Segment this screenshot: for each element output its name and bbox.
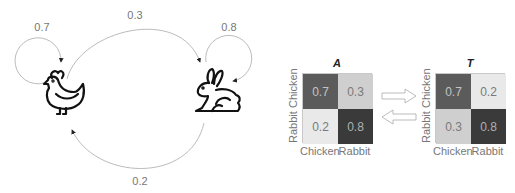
matrix-a-cell: 0.7 [303,74,338,109]
edge-rabbit-rabbit [206,35,252,81]
matrix-a-col-label-rabbit: Rabbit [337,145,372,157]
matrix-t: 0.7 0.2 0.3 0.8 [435,73,505,143]
matrix-t-col-label-rabbit: Rabbit [470,145,505,157]
matrix-a-row-label-rabbit: Rabbit [287,111,299,143]
edge-label-chicken-chicken: 0.7 [34,21,49,33]
edge-label-rabbit-rabbit: 0.8 [221,21,236,33]
edge-label-chicken-rabbit: 0.3 [127,9,142,21]
matrix-a-cell: 0.3 [338,74,373,109]
chicken-icon [44,71,84,114]
edge-label-rabbit-chicken: 0.2 [132,175,147,187]
matrix-a-cell: 0.2 [303,109,338,144]
rabbit-icon [196,69,240,111]
matrix-t-cell: 0.3 [436,109,471,144]
edge-rabbit-chicken [72,123,204,169]
matrix-t-cell: 0.2 [471,74,506,109]
matrix-t-row-label-rabbit: Rabbit [420,111,432,143]
matrix-t-cell: 0.8 [471,109,506,144]
edge-chicken-rabbit [67,29,200,79]
matrix-a-title: A [333,57,341,69]
matrix-t-title: T [467,57,474,69]
matrix-t-cell: 0.7 [436,74,471,109]
matrix-a-cell: 0.8 [338,109,373,144]
matrix-t-col-label-chicken: Chicken [433,145,468,157]
matrix-a-col-label-chicken: Chicken [300,145,335,157]
arrow-right-icon [382,89,416,103]
matrix-t-row-label-chicken: Chicken [420,68,432,108]
matrix-a-row-label-chicken: Chicken [287,68,299,108]
matrix-a: 0.7 0.3 0.2 0.8 [302,73,372,143]
arrow-left-icon [382,110,416,124]
